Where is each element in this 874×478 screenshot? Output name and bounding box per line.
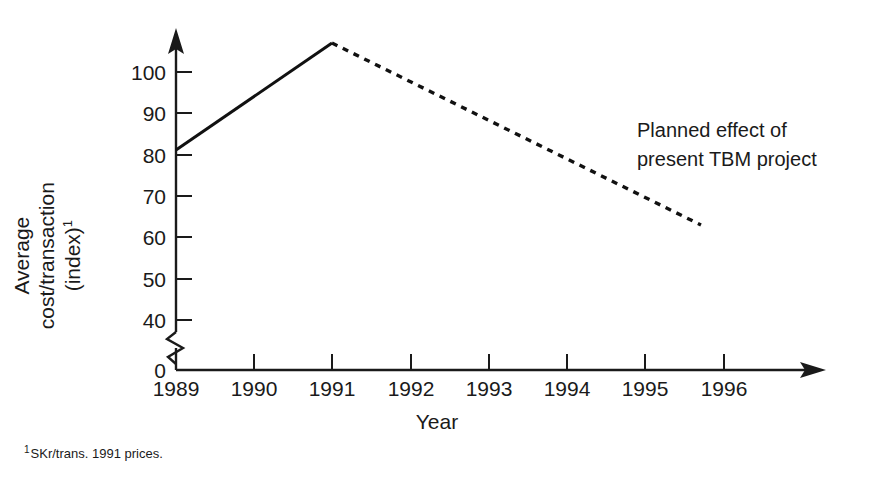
x-tick-label-1995: 1995	[622, 377, 669, 400]
series-line-actual	[176, 43, 332, 150]
y-tick-label-80: 80	[143, 144, 166, 167]
y-tick-label-70: 70	[143, 185, 166, 208]
y-tick-label-40: 40	[143, 309, 166, 332]
chart-plot-area: 100 90 80 70 60 50 40 0 1989 1990 1991 1…	[0, 0, 874, 478]
chart-figure: 100 90 80 70 60 50 40 0 1989 1990 1991 1…	[0, 0, 874, 478]
x-axis-title: Year	[0, 410, 874, 434]
x-tick-label-1992: 1992	[388, 377, 435, 400]
footnote-marker: 1	[24, 444, 30, 455]
x-tick-label-1993: 1993	[466, 377, 513, 400]
x-tick-label-1994: 1994	[544, 377, 591, 400]
y-tick-label-90: 90	[143, 102, 166, 125]
planned-effect-annotation: Planned effect of present TBM project	[637, 116, 817, 174]
x-tick-label-1989: 1989	[153, 377, 200, 400]
y-tick-label-50: 50	[143, 268, 166, 291]
y-axis-title: Average cost/transaction (index)1	[10, 146, 85, 366]
x-tick-label-1991: 1991	[309, 377, 356, 400]
y-tick-label-60: 60	[143, 226, 166, 249]
x-tick-label-1996: 1996	[701, 377, 748, 400]
y-axis-title-superscript: 1	[60, 220, 75, 227]
chart-footnote: 1SKr/trans. 1991 prices.	[24, 444, 163, 461]
x-tick-label-1990: 1990	[231, 377, 278, 400]
y-tick-label-100: 100	[131, 61, 166, 84]
y-axis-title-text: Average cost/transaction (index)	[10, 182, 84, 329]
footnote-text: SKr/trans. 1991 prices.	[31, 446, 163, 461]
